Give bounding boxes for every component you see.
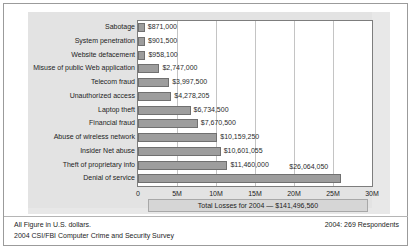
x-tick-label: 10M xyxy=(209,189,223,199)
bar[interactable] xyxy=(138,106,191,115)
category-label: Misuse of public Web application xyxy=(20,62,135,74)
bar-value-label: $2,747,000 xyxy=(162,62,197,74)
category-label: System penetration xyxy=(20,35,135,47)
total-losses-banner: Total Losses for 2004 — $141,496,560 xyxy=(148,199,368,212)
footer-divider xyxy=(4,216,408,217)
chart-screenshot: SabotageSystem penetrationWebsite deface… xyxy=(0,0,413,250)
plot-area: $871,000$901,500$958,100$2,747,000$3,997… xyxy=(137,20,373,187)
bar-row[interactable]: $958,100 xyxy=(138,49,372,63)
category-label: Financial fraud xyxy=(20,117,135,129)
bar-row[interactable]: $11,460,000 xyxy=(138,159,372,173)
bar[interactable] xyxy=(138,147,221,156)
bar[interactable] xyxy=(138,92,171,101)
bar-row[interactable]: $6,734,500 xyxy=(138,104,372,118)
bar-value-label: $6,734,500 xyxy=(194,104,229,116)
category-label: Sabotage xyxy=(20,21,135,33)
bar-row[interactable]: $3,997,500 xyxy=(138,76,372,90)
bar-value-label: $901,500 xyxy=(148,35,177,47)
footer-line-1: All Figure in U.S. dollars. xyxy=(14,219,174,230)
bar-value-label: $10,159,250 xyxy=(220,131,259,143)
footer-source: All Figure in U.S. dollars. 2004 CSI/FBI… xyxy=(14,219,174,241)
bar[interactable] xyxy=(138,133,217,142)
bar-value-label: $11,460,000 xyxy=(230,159,268,171)
bar-row[interactable]: $901,500 xyxy=(138,35,372,49)
x-tick-label: 5M xyxy=(172,189,182,199)
plot-inner: $871,000$901,500$958,100$2,747,000$3,997… xyxy=(138,21,372,186)
category-label: Telecom fraud xyxy=(20,76,135,88)
category-label: Unauthorized access xyxy=(20,90,135,102)
category-label: Theft of proprietary info xyxy=(20,159,135,171)
x-tick-label: 25M xyxy=(326,189,340,199)
footer-line-2: 2004 CSI/FBI Computer Crime and Security… xyxy=(14,230,174,241)
x-tick-label: 20M xyxy=(287,189,301,199)
category-label: Laptop theft xyxy=(20,104,135,116)
category-axis-labels: SabotageSystem penetrationWebsite deface… xyxy=(20,20,135,187)
footer-respondents: 2004: 269 Respondents xyxy=(325,219,399,230)
total-losses-text: Total Losses for 2004 — $141,496,560 xyxy=(149,200,367,211)
category-label: Denial of service xyxy=(20,172,135,184)
x-tick-label: 15M xyxy=(248,189,262,199)
category-label: Insider Net abuse xyxy=(20,145,135,157)
bar[interactable] xyxy=(138,23,145,32)
bar-value-label: $7,670,500 xyxy=(201,117,236,129)
bar-value-label: $3,997,500 xyxy=(172,76,207,88)
category-label: Website defacement xyxy=(20,49,135,61)
bar[interactable] xyxy=(138,119,198,128)
bar-row[interactable]: $10,601,055 xyxy=(138,145,372,159)
bar-rows: $871,000$901,500$958,100$2,747,000$3,997… xyxy=(138,21,372,186)
bar-value-label: $871,000 xyxy=(148,21,177,33)
bar[interactable] xyxy=(138,64,159,73)
bar-value-label: $26,064,050 xyxy=(289,161,328,173)
bar[interactable] xyxy=(138,161,227,170)
bar-row[interactable]: $871,000 xyxy=(138,21,372,35)
bar-row[interactable]: $2,747,000 xyxy=(138,62,372,76)
category-label: Abuse of wireless network xyxy=(20,131,135,143)
bar-value-label: $10,601,055 xyxy=(224,145,263,157)
bar-row[interactable]: $4,278,205 xyxy=(138,90,372,104)
x-tick-label: 0 xyxy=(136,189,140,199)
bar-row[interactable]: $10,159,250 xyxy=(138,131,372,145)
bar[interactable] xyxy=(138,37,145,46)
bar-row[interactable]: $7,670,500 xyxy=(138,117,372,131)
bar-row[interactable]: $26,064,050 xyxy=(138,172,372,186)
x-tick-label: 30M xyxy=(365,189,379,199)
bar-value-label: $4,278,205 xyxy=(174,90,209,102)
bar[interactable] xyxy=(138,51,145,60)
bar-value-label: $958,100 xyxy=(148,49,177,61)
bar[interactable] xyxy=(138,78,169,87)
bar[interactable] xyxy=(138,174,341,183)
